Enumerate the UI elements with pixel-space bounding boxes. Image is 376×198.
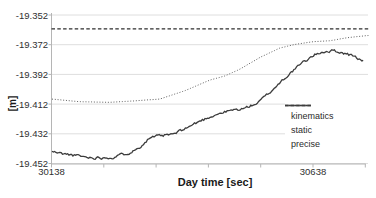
legend-item-precise: precise bbox=[285, 137, 370, 151]
y-tick-label: -19.372 bbox=[4, 39, 48, 50]
legend: kinematics static precise bbox=[285, 103, 370, 156]
legend-label-precise: precise bbox=[291, 139, 320, 149]
series-static bbox=[52, 36, 368, 103]
y-axis-title: [m] bbox=[7, 93, 20, 115]
y-tick-label: -19.392 bbox=[4, 69, 48, 80]
chart-figure: -19.352-19.372-19.392-19.412-19.432-19.4… bbox=[0, 0, 376, 198]
y-tick-label: -19.352 bbox=[4, 10, 48, 21]
legend-item-static: static bbox=[285, 123, 370, 137]
y-tick-label: -19.432 bbox=[4, 128, 48, 139]
legend-item-kinematics: kinematics bbox=[285, 109, 370, 123]
precise-line-icon bbox=[285, 103, 311, 108]
x-axis-title: Day time [sec] bbox=[55, 176, 375, 188]
legend-label-kinematics: kinematics bbox=[291, 111, 334, 121]
legend-label-static: static bbox=[291, 125, 312, 135]
